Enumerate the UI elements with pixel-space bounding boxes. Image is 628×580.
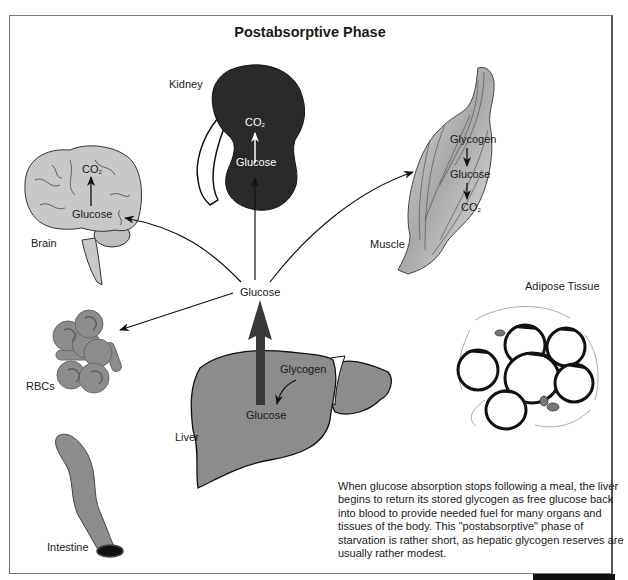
- brain-label: Brain: [31, 237, 57, 250]
- brain-co2-label: CO2: [82, 163, 102, 179]
- intestine-illustration: [56, 434, 123, 557]
- muscle-co2-label: CO2: [461, 201, 481, 217]
- adipose-label: Adipose Tissue: [525, 280, 600, 293]
- kidney-co2-label: CO2: [245, 116, 265, 132]
- liver-glucose-label: Glucose: [246, 409, 286, 422]
- figure-title: Postabsorptive Phase: [0, 24, 620, 40]
- intestine-label: Intestine: [47, 541, 89, 554]
- muscle-glucose-label: Glucose: [450, 168, 490, 181]
- brain-glucose-label: Glucose: [72, 208, 112, 221]
- description-text: When glucose absorption stops following …: [338, 480, 628, 560]
- muscle-label: Muscle: [370, 238, 405, 251]
- rbcs-illustration: [53, 310, 123, 393]
- kidney-co2-subscript: 2: [262, 122, 265, 128]
- adipose-illustration: [458, 306, 598, 429]
- kidney-illustration: [197, 65, 304, 210]
- liver-label: Liver: [175, 431, 199, 444]
- muscle-glycogen-label: Glycogen: [450, 133, 496, 146]
- liver-glycogen-label: Glycogen: [280, 363, 326, 376]
- muscle-co2-subscript: 2: [478, 207, 481, 213]
- brain-co2-text: CO: [82, 163, 99, 175]
- kidney-label: Kidney: [169, 78, 203, 91]
- kidney-co2-text: CO: [245, 116, 262, 128]
- muscle-co2-text: CO: [461, 201, 478, 213]
- rbcs-label: RBCs: [26, 380, 55, 393]
- brain-co2-subscript: 2: [99, 169, 102, 175]
- description-paragraph: When glucose absorption stops following …: [338, 480, 628, 560]
- central-glucose-label: Glucose: [240, 286, 280, 299]
- kidney-glucose-label: Glucose: [236, 156, 276, 169]
